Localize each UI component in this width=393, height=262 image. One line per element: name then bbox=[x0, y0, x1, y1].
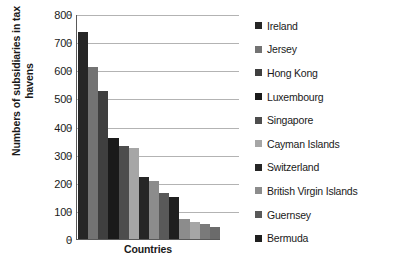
bar bbox=[139, 177, 149, 239]
bar bbox=[169, 197, 179, 239]
y-axis-tick-mark bbox=[68, 43, 72, 44]
y-axis-tick-mark bbox=[68, 71, 72, 72]
y-axis-tick-mark bbox=[68, 99, 72, 100]
bar bbox=[179, 219, 189, 239]
y-axis-tick-mark bbox=[68, 183, 72, 184]
legend-item[interactable]: Switzerland bbox=[255, 156, 393, 180]
bar bbox=[159, 193, 169, 239]
y-axis-tick-mark bbox=[68, 240, 72, 241]
legend-label: Cayman Islands bbox=[267, 138, 339, 150]
bar bbox=[98, 91, 108, 239]
legend-item[interactable]: Guernsey bbox=[255, 203, 393, 227]
bar bbox=[78, 32, 88, 239]
legend-swatch-icon bbox=[255, 140, 262, 147]
bar bbox=[119, 146, 129, 239]
legend-label: Ireland bbox=[267, 20, 298, 32]
legend-label: Bermuda bbox=[267, 232, 308, 244]
bar-series bbox=[77, 15, 220, 239]
y-axis-tick-mark bbox=[68, 211, 72, 212]
legend-label: Hong Kong bbox=[267, 67, 318, 79]
bar bbox=[88, 67, 98, 239]
y-axis-tick-mark bbox=[68, 155, 72, 156]
legend-item[interactable]: Cayman Islands bbox=[255, 132, 393, 156]
legend-swatch-icon bbox=[255, 187, 262, 194]
bar bbox=[200, 224, 210, 239]
bar bbox=[108, 138, 118, 239]
legend-swatch-icon bbox=[255, 164, 262, 171]
legend-label: Luxembourg bbox=[267, 91, 323, 103]
bar bbox=[190, 222, 200, 239]
bar-chart: Numbers of subsidiaries in tax havens 80… bbox=[0, 0, 393, 262]
legend-label: Singapore bbox=[267, 114, 313, 126]
legend-swatch-icon bbox=[255, 93, 262, 100]
legend-item[interactable]: Bermuda bbox=[255, 226, 393, 250]
legend-item[interactable]: British Virgin Islands bbox=[255, 179, 393, 203]
legend-label: Guernsey bbox=[267, 209, 311, 221]
y-axis-tick-mark bbox=[68, 127, 72, 128]
y-axis-tick-labels: 8007006005004003002001000 bbox=[36, 0, 72, 262]
legend-swatch-icon bbox=[255, 22, 262, 29]
legend-item[interactable]: Singapore bbox=[255, 108, 393, 132]
legend-swatch-icon bbox=[255, 46, 262, 53]
x-axis-title: Countries bbox=[76, 243, 220, 255]
legend-label: British Virgin Islands bbox=[267, 185, 358, 197]
chart-legend: IrelandJerseyHong KongLuxembourgSingapor… bbox=[255, 14, 393, 250]
legend-swatch-icon bbox=[255, 117, 262, 124]
legend-swatch-icon bbox=[255, 69, 262, 76]
bar bbox=[149, 181, 159, 239]
legend-label: Jersey bbox=[267, 43, 297, 55]
legend-swatch-icon bbox=[255, 211, 262, 218]
plot-area bbox=[76, 15, 220, 240]
legend-item[interactable]: Hong Kong bbox=[255, 61, 393, 85]
y-axis-title: Numbers of subsidiaries in tax havens bbox=[10, 6, 36, 156]
legend-item[interactable]: Ireland bbox=[255, 14, 393, 38]
legend-item[interactable]: Luxembourg bbox=[255, 85, 393, 109]
legend-label: Switzerland bbox=[267, 161, 319, 173]
legend-swatch-icon bbox=[255, 235, 262, 242]
y-axis-tick-mark bbox=[68, 15, 72, 16]
bar bbox=[210, 227, 220, 239]
legend-item[interactable]: Jersey bbox=[255, 38, 393, 62]
bar bbox=[129, 148, 139, 239]
